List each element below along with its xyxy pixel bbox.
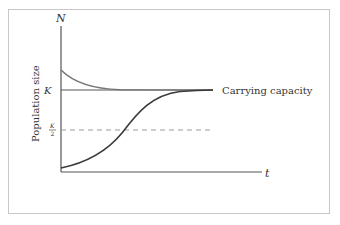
k-half-denominator: 2 bbox=[51, 130, 55, 137]
k-half-numerator: K bbox=[49, 122, 55, 129]
k-tick-label: K bbox=[43, 85, 52, 96]
decaying-population-curve bbox=[61, 70, 213, 90]
x-axis-label: t bbox=[265, 167, 270, 180]
y-axis-top-label: N bbox=[55, 12, 66, 25]
y-axis-label: Population size bbox=[30, 65, 41, 142]
carrying-capacity-label: Carrying capacity bbox=[222, 85, 313, 96]
logistic-growth-curve bbox=[61, 90, 213, 168]
logistic-growth-diagram: N t K K 2 Population size Carrying capac… bbox=[0, 0, 340, 225]
